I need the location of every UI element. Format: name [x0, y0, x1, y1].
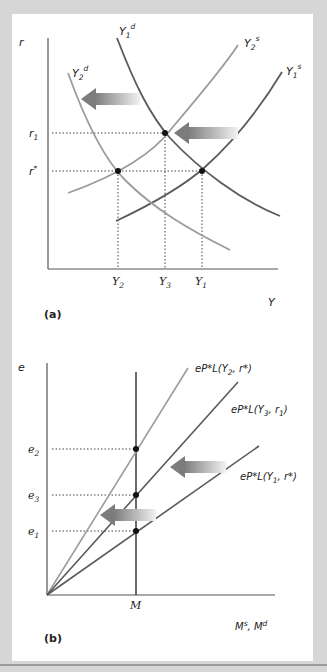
equilibrium-point-e2 — [133, 446, 139, 452]
panel-a-y-axis-label: r — [19, 36, 25, 49]
panel-b-y-axis-label: e — [18, 361, 25, 374]
curve-y2-supply — [68, 45, 238, 193]
tick-rstar: r* — [29, 164, 38, 178]
panel-b: e e2 e3 e1 M Ms, Md eP*L(Y2, r*) eP*L(Y3… — [18, 361, 297, 645]
panel-b-caption: (b) — [44, 632, 62, 645]
label-l-y1-rstar: eP*L(Y1, r*) — [240, 471, 297, 485]
equilibrium-point-e3 — [133, 492, 139, 498]
line-l-y3-r1 — [47, 382, 238, 595]
equilibrium-point-r1-y3 — [162, 130, 168, 136]
label-y1-demand: Y1d — [119, 22, 136, 40]
label-l-y2-rstar: eP*L(Y2, r*) — [195, 363, 252, 377]
label-y2-supply: Y2s — [244, 34, 260, 52]
panel-a-x-axis-label: Y — [268, 296, 276, 309]
shift-arrow-demand-left — [81, 88, 140, 110]
line-l-y2-rstar — [47, 368, 188, 595]
panel-a-guides — [52, 133, 202, 269]
tick-e1: e1 — [28, 525, 39, 540]
tick-y1: Y1 — [195, 275, 207, 290]
equilibrium-point-e1 — [133, 528, 139, 534]
shift-arrow-lower — [100, 504, 156, 526]
panel-b-x-axis-label: Ms, Md — [235, 619, 268, 632]
label-l-y3-r1: eP*L(Y3, r1) — [231, 404, 288, 418]
diagram-canvas: r Y r1 r* Y2 Y3 Y1 Y1d Y2s Y2d Y1s (a) — [0, 0, 327, 672]
shift-arrow-supply-left — [174, 122, 238, 144]
tick-m: M — [129, 599, 142, 612]
tick-e3: e3 — [28, 489, 40, 504]
tick-y3: Y3 — [159, 275, 171, 290]
label-y2-demand: Y2d — [72, 64, 89, 82]
label-y1-supply: Y1s — [286, 62, 302, 80]
tick-r1: r1 — [29, 127, 38, 142]
tick-y2: Y2 — [112, 275, 124, 290]
panel-a-caption: (a) — [44, 308, 61, 321]
equilibrium-point-rstar-y2 — [115, 168, 121, 174]
tick-e2: e2 — [28, 443, 40, 458]
panel-a: r Y r1 r* Y2 Y3 Y1 Y1d Y2s Y2d Y1s (a) — [19, 22, 302, 321]
equilibrium-point-rstar-y1 — [199, 168, 205, 174]
